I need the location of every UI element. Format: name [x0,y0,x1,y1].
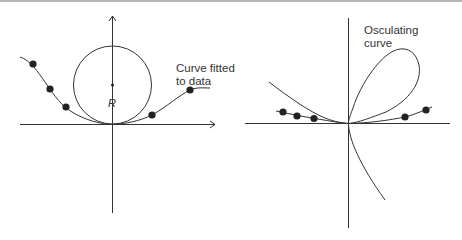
osculating-curve-label: Osculating curve [364,24,418,50]
data-point [29,60,36,67]
data-point [401,113,408,120]
fitted-curve-label-line1: Curve fitted [176,62,235,75]
data-point [62,103,69,110]
osculating-curve-label-line2: curve [364,37,418,50]
circle-center-point [111,84,114,87]
data-point [422,106,429,113]
data-point [293,112,300,119]
data-point [46,85,53,92]
osculating-loop-curve [269,49,419,200]
fitted-curve-label: Curve fitted to data [176,62,235,88]
data-point [310,115,317,122]
osculating-curve-label-line1: Osculating [364,24,418,37]
data-point [148,111,155,118]
fitted-curve-label-line2: to data [176,75,235,88]
data-point [279,108,286,115]
radius-label: R [108,97,116,109]
